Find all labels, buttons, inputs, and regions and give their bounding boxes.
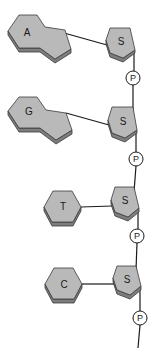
sugar-2: S bbox=[108, 107, 137, 142]
base-label: A bbox=[24, 27, 31, 38]
pyrimidine-base-t: T bbox=[44, 191, 81, 226]
phosphate-label: P bbox=[137, 313, 143, 323]
base-label: G bbox=[25, 106, 33, 117]
sugar-3: S bbox=[111, 187, 139, 221]
base-sugar-bond bbox=[64, 33, 107, 45]
pyrimidine-base-c: C bbox=[45, 268, 82, 303]
phosphate-2: P bbox=[129, 152, 143, 166]
nucleotide-2: G S P bbox=[8, 97, 143, 166]
base-sugar-bond bbox=[81, 206, 112, 207]
base-sugar-bond bbox=[66, 113, 109, 125]
glycosidic-bonds bbox=[64, 33, 114, 284]
sugar-label: S bbox=[120, 116, 127, 127]
phosphate-label: P bbox=[134, 231, 140, 241]
nucleotide-4: C S P bbox=[45, 266, 147, 325]
phosphate-3: P bbox=[130, 229, 144, 243]
sugar-1: S bbox=[106, 28, 135, 62]
backbone-bond bbox=[138, 325, 140, 348]
phosphate-label: P bbox=[133, 154, 139, 164]
base-label: T bbox=[60, 201, 66, 212]
nucleotide-1: A S P bbox=[8, 15, 140, 85]
purine-base-g: G bbox=[8, 97, 72, 144]
sugar-label: S bbox=[118, 36, 125, 47]
phosphate-4: P bbox=[133, 311, 147, 325]
phosphate-1: P bbox=[126, 71, 140, 85]
dna-strand-diagram: A S P G S P T bbox=[0, 0, 156, 359]
base-label: C bbox=[60, 279, 67, 290]
nucleotide-3: T S P bbox=[44, 187, 144, 243]
sugar-label: S bbox=[122, 195, 129, 206]
phosphate-label: P bbox=[130, 73, 136, 83]
sugar-4: S bbox=[113, 266, 141, 299]
sugar-label: S bbox=[124, 274, 131, 285]
purine-base-a: A bbox=[8, 15, 71, 63]
